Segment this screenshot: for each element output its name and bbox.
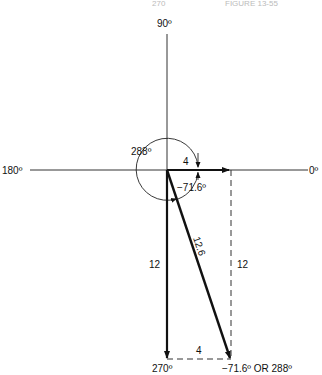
page-number: 270	[152, 0, 166, 8]
axis-label-180: 180º	[2, 165, 23, 176]
label-horizontal-4: 4	[183, 156, 189, 167]
axis-label-270: 270º	[152, 363, 173, 374]
vector-resultant	[167, 170, 230, 358]
label-tip-angle: −71.6º OR 288º	[222, 363, 292, 374]
axis-label-90: 90º	[157, 18, 172, 29]
label-dashed-4: 4	[196, 345, 202, 356]
axis-label-0: 0º	[309, 165, 319, 176]
label-neg-71-6: −71.6º	[177, 182, 206, 193]
label-288: 288º	[131, 146, 152, 157]
phasor-diagram: 270 FIGURE 13-55 90º 180º 0º 270º 288º 4…	[0, 0, 322, 375]
figure-caption: FIGURE 13-55	[225, 0, 278, 8]
label-dashed-12: 12	[237, 259, 249, 270]
label-vertical-12: 12	[149, 259, 161, 270]
